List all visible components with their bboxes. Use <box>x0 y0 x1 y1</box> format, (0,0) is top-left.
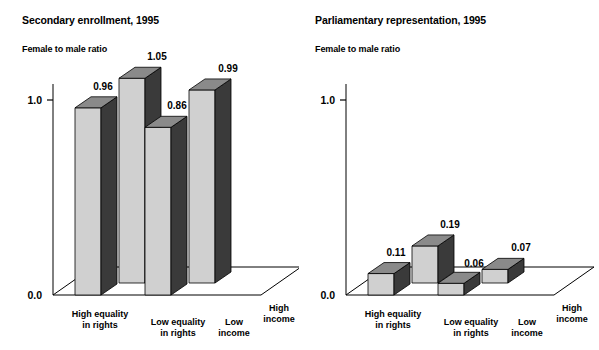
category-label-line2: income <box>556 314 588 324</box>
category-label: High equalityin rights <box>365 309 422 330</box>
y-tick-label-top: 1.0 <box>320 94 335 106</box>
bar-chart-secondary-enrollment: 0.961.050.860.991.00.0High equalityin ri… <box>0 0 299 350</box>
bar-value-label: 0.96 <box>93 81 113 92</box>
bar-front-face <box>482 269 508 283</box>
category-label: High equalityin rights <box>72 309 129 330</box>
bar-front-face <box>438 283 464 295</box>
category-label: Low equalityin rights <box>151 317 206 338</box>
bar-side-face <box>215 79 231 283</box>
bar-3d <box>189 79 231 283</box>
category-label-line2: in rights <box>160 328 196 338</box>
category-label-line1: Low <box>225 317 244 327</box>
bar-3d <box>368 263 410 295</box>
category-label-line1: Low equality <box>444 317 499 327</box>
category-label: Lowincome <box>218 317 250 338</box>
bar-value-label: 0.99 <box>218 63 238 74</box>
bar-value-label: 0.11 <box>387 247 406 258</box>
bar-side-face <box>171 116 187 295</box>
bar-front-face <box>145 127 171 295</box>
category-label: Low equalityin rights <box>444 317 499 338</box>
category-label-line2: income <box>511 328 543 338</box>
bar-3d <box>75 97 117 295</box>
category-label-line2: in rights <box>375 320 411 330</box>
category-label-line1: Low <box>518 317 537 327</box>
bar-3d <box>145 116 187 295</box>
bar-value-label: 0.06 <box>464 258 484 269</box>
category-label-line2: in rights <box>453 328 489 338</box>
category-label-line2: income <box>218 328 250 338</box>
bar-value-label: 0.19 <box>440 219 460 230</box>
bar-front-face <box>189 90 215 283</box>
category-label-line1: Low equality <box>151 317 206 327</box>
category-label-line2: in rights <box>82 320 118 330</box>
category-label-line1: High equality <box>365 309 422 319</box>
bar-3d <box>412 235 454 283</box>
category-label: Highincome <box>263 303 295 324</box>
category-label: Lowincome <box>511 317 543 338</box>
bar-3d <box>482 258 524 283</box>
chart-panel-parliamentary-representation: Parliamentary representation, 1995 Femal… <box>300 0 599 350</box>
bar-chart-parliamentary-representation: 0.110.190.060.071.00.0High equalityin ri… <box>300 0 599 350</box>
category-label-line1: High <box>562 303 582 313</box>
bar-front-face <box>368 274 394 295</box>
bar-front-face <box>119 78 145 283</box>
y-tick-label-bottom: 0.0 <box>27 289 42 301</box>
bar-front-face <box>412 246 438 283</box>
bar-value-label: 1.05 <box>147 51 167 62</box>
chart-panel-secondary-enrollment: Secondary enrollment, 1995 Female to mal… <box>0 0 299 350</box>
category-label: Highincome <box>556 303 588 324</box>
category-label-line1: High <box>269 303 289 313</box>
bar-front-face <box>75 108 101 295</box>
category-label-line2: income <box>263 314 295 324</box>
y-tick-label-top: 1.0 <box>27 94 42 106</box>
bar-side-face <box>101 97 117 295</box>
y-tick-label-bottom: 0.0 <box>320 289 335 301</box>
bar-value-label: 0.86 <box>167 100 187 111</box>
category-label-line1: High equality <box>72 309 129 319</box>
bar-value-label: 0.07 <box>511 242 531 253</box>
